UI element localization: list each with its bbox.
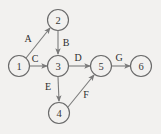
node-label-4: 4 (56, 108, 62, 119)
edge-label-c: C (32, 53, 39, 64)
node-1: 1 (9, 56, 30, 77)
node-5: 5 (91, 56, 112, 77)
node-label-5: 5 (98, 61, 103, 72)
edge-4-to-5 (68, 75, 94, 107)
edge-label-b: B (63, 37, 70, 48)
edge-3-to-4 (58, 77, 59, 101)
node-4: 4 (49, 103, 70, 124)
graph-canvas: 123456 ABCDEFG (0, 0, 161, 134)
edge-label-f: F (83, 89, 89, 100)
node-3: 3 (48, 56, 69, 77)
edge-label-a: A (24, 33, 32, 44)
node-6: 6 (131, 56, 152, 77)
node-label-3: 3 (55, 61, 60, 72)
node-label-2: 2 (55, 15, 60, 26)
node-label-1: 1 (16, 61, 21, 72)
edge-label-d: D (74, 52, 81, 63)
node-label-6: 6 (138, 61, 143, 72)
edges-group (26, 28, 130, 107)
edge-label-e: E (45, 81, 51, 92)
edge-label-g: G (115, 52, 122, 63)
graph-diagram: 123456 ABCDEFG (0, 0, 161, 134)
node-2: 2 (48, 10, 69, 31)
